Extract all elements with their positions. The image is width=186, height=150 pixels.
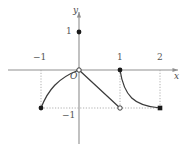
point-mid-right-hole xyxy=(118,106,122,110)
y-tick-label-neg1: −1 xyxy=(62,111,75,120)
x-tick-label-1: 1 xyxy=(117,53,123,62)
x-axis-label: x xyxy=(174,72,179,81)
segment-middle xyxy=(79,70,120,108)
point-right-branch-start xyxy=(118,68,123,73)
point-origin-hole xyxy=(77,68,81,72)
origin-label: O xyxy=(70,72,77,81)
point-right-endpoint xyxy=(158,106,163,111)
curve-right-branch xyxy=(120,70,160,108)
graph-figure: y x O −1 1 2 1 −1 xyxy=(0,0,186,150)
coordinate-plane xyxy=(0,0,186,150)
y-tick-label-1: 1 xyxy=(66,27,72,36)
y-axis-label: y xyxy=(73,6,78,15)
x-tick-label-neg1: −1 xyxy=(33,53,46,62)
point-left-endpoint xyxy=(39,106,44,111)
point-y-intercept-marker xyxy=(77,30,82,35)
x-tick-label-2: 2 xyxy=(157,53,163,62)
